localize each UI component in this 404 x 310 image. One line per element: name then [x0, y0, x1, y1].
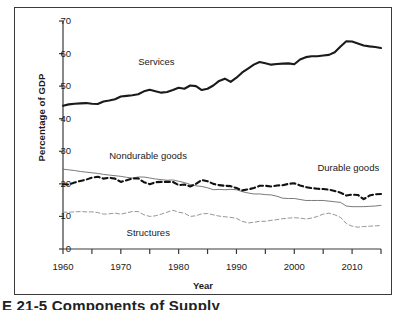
y-tick-label: 40	[41, 113, 71, 124]
x-tick-label: 1990	[214, 261, 258, 272]
figure-caption: E 21-5 Components of Supply	[2, 297, 220, 310]
y-tick-label: 50	[41, 80, 71, 91]
x-tick-label: 2000	[272, 261, 316, 272]
series-line-durable-goods	[63, 177, 381, 199]
x-tick-label: 1960	[41, 261, 85, 272]
x-tick-label: 1980	[157, 261, 201, 272]
x-tick-label: 2010	[330, 261, 374, 272]
y-tick-label: 60	[41, 48, 71, 59]
y-tick-label: 70	[41, 15, 71, 26]
series-annotation: Nondurable goods	[109, 150, 187, 161]
y-tick-label: 10	[41, 210, 71, 221]
series-annotation: Services	[138, 56, 174, 67]
x-tick-label: 1970	[99, 261, 143, 272]
axes-group	[59, 21, 381, 254]
series-group	[63, 41, 381, 227]
chart-frame: Percentage of GDP Year 010203040506070 1…	[14, 7, 392, 295]
y-tick-label: 20	[41, 178, 71, 189]
y-tick-label: 30	[41, 145, 71, 156]
series-line-nondurable-goods	[63, 169, 381, 206]
series-annotation: Durable goods	[317, 162, 379, 173]
figure-container: Percentage of GDP Year 010203040506070 1…	[0, 0, 404, 310]
plot-svg	[15, 8, 393, 296]
y-tick-label: 0	[41, 243, 71, 254]
series-annotation: Structures	[127, 227, 170, 238]
series-line-services	[63, 41, 381, 106]
series-line-structures	[63, 210, 381, 227]
